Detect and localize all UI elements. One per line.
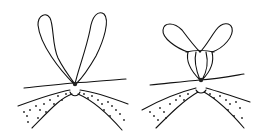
stipple-right [149, 93, 243, 121]
right-loop [75, 13, 106, 84]
stipple-dot [187, 93, 189, 95]
stipple-dot [101, 103, 103, 105]
stipple-dot [175, 99, 177, 101]
stipple-dot [49, 99, 51, 101]
stipple-dot [43, 103, 45, 105]
left-loop [38, 15, 75, 84]
stipple-dot [157, 119, 159, 121]
stipple-dot [29, 109, 31, 111]
loop-stem-left [188, 52, 201, 80]
stipple-dot [57, 95, 59, 97]
stipple-dot [65, 93, 67, 95]
stipple-dot [183, 99, 185, 101]
stipple-dot [53, 103, 55, 105]
suture-left [24, 13, 126, 88]
tissue-left [18, 90, 128, 130]
stipple-dot [241, 117, 243, 119]
stipple-dot [35, 105, 37, 107]
stipple-dot [233, 115, 235, 117]
panel-left [18, 13, 128, 130]
stipple-dot [83, 93, 85, 95]
upper-left-loop [163, 24, 200, 52]
stipple-dot [109, 115, 111, 117]
tissue-lower-edge-left [156, 92, 198, 128]
knot-right [199, 78, 203, 82]
stipple-dot [159, 107, 161, 109]
stipple-dot [87, 97, 89, 99]
stipple-dot [213, 97, 215, 99]
tissue-notch [196, 90, 206, 93]
stipple-dot [119, 113, 121, 115]
knot-left [73, 82, 77, 86]
stipple-dot [165, 117, 167, 119]
tissue-notch [70, 92, 80, 96]
stipple-dot [163, 111, 165, 113]
stipple-dot [239, 107, 241, 109]
stipple-dot [225, 99, 227, 101]
stipple-dot [27, 121, 29, 123]
stipple-dot [235, 101, 237, 103]
loop-stem-right [202, 52, 213, 80]
stipple-dot [229, 103, 231, 105]
stipple-dot [153, 115, 155, 117]
stipple-dot [23, 111, 25, 113]
panel-right [142, 24, 250, 128]
stipple-dot [91, 95, 93, 97]
stipple-dot [209, 93, 211, 95]
stipple-dot [37, 117, 39, 119]
stipple-dot [219, 95, 221, 97]
knot-diagram [0, 0, 262, 140]
suture-strand [150, 74, 244, 85]
stipple-dot [26, 115, 28, 117]
stipple-dot [111, 105, 113, 107]
tissue-right [142, 88, 250, 128]
stipple-dot [149, 111, 151, 113]
stipple-dot [103, 109, 105, 111]
stipple-dot [169, 103, 171, 105]
tissue-upper-edge-right [80, 90, 128, 104]
stipple-dot [97, 99, 99, 101]
stipple-dot [107, 101, 109, 103]
tissue-upper-edge-right [206, 88, 250, 102]
stipple-dot [179, 95, 181, 97]
suture-right [150, 24, 244, 85]
stipple-dot [227, 109, 229, 111]
stipple-dot [45, 111, 47, 113]
upper-right-loop [200, 24, 232, 52]
stipple-dot [39, 109, 41, 111]
stipple-dot [115, 109, 117, 111]
tissue-lower-edge-right [204, 92, 244, 128]
stipple-dot [123, 119, 125, 121]
stipple-dot [61, 99, 63, 101]
